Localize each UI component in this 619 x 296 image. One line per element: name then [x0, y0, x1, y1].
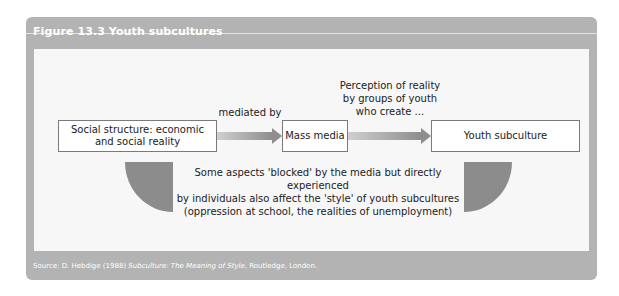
figure-title: Figure 13.3 Youth subcultures [33, 25, 223, 38]
node-social-structure-line1: Social structure: economic [71, 124, 204, 136]
note-line: Some aspects 'blocked' by the media but … [170, 166, 466, 192]
note-line: by individuals also affect the 'style' o… [170, 192, 466, 205]
edge-label-line: Perception of reality [335, 79, 445, 92]
arrow-shaft [217, 132, 272, 140]
node-social-structure: Social structure: economic and social re… [58, 120, 217, 152]
source-title: Subculture: The Meaning of Style [128, 262, 244, 270]
edge-label-line: by groups of youth [335, 92, 445, 105]
edge-label-perception: Perception of reality by groups of youth… [335, 79, 445, 118]
node-social-structure-line2: and social reality [71, 136, 204, 148]
source-suffix: , Routledge, London. [245, 262, 317, 270]
arrow-mediated-by [217, 132, 282, 140]
arrow-shaft [348, 132, 421, 140]
node-mass-media: Mass media [282, 120, 348, 152]
node-youth-subculture: Youth subculture [431, 120, 580, 152]
blocked-aspects-note: Some aspects 'blocked' by the media but … [170, 166, 466, 218]
arrow-head-icon [421, 128, 431, 144]
node-mass-media-label: Mass media [285, 130, 345, 142]
note-line: (oppression at school, the realities of … [170, 205, 466, 218]
source-citation: Source: D. Hebdige (1988) Subculture: Th… [33, 262, 317, 270]
source-prefix: Source: D. Hebdige (1988) [33, 262, 128, 270]
edge-label-mediated-by: mediated by [210, 106, 290, 119]
arrow-perception [348, 132, 431, 140]
node-youth-subculture-label: Youth subculture [464, 130, 548, 142]
edge-label-line: who create ... [335, 105, 445, 118]
arrow-head-icon [272, 128, 282, 144]
